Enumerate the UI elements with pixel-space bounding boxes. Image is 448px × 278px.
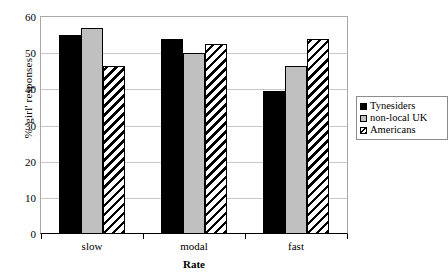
legend-label: Americans [370,125,415,136]
bar-fast-americans [307,39,329,234]
bar-modal-tynesiders [161,39,183,234]
x-axis-title: Rate [40,258,348,270]
x-axis-tick-mark [41,234,42,239]
y-axis-tick-label: 0 [10,229,36,240]
bar-slow-americans [103,66,125,234]
legend-label: Tynesiders [370,101,415,112]
bar-fast-non-local-uk [285,66,307,234]
y-axis-tick-label: 30 [10,120,36,131]
bar-chart: % 'girl' responses 0102030405060 slowmod… [0,0,448,278]
x-axis-tick-mark [143,234,144,239]
y-axis-tick-label: 20 [10,156,36,167]
y-axis-tick-label: 10 [10,192,36,203]
legend-swatch-icon [360,127,367,134]
bar-slow-non-local-uk [81,28,103,234]
bar-modal-americans [205,44,227,234]
x-axis-tick-mark [347,234,348,239]
y-axis-tick-labels: 0102030405060 [10,16,36,234]
bar-slow-tynesiders [59,35,81,234]
bar-modal-non-local-uk [183,53,205,234]
legend-label: non-local UK [370,113,427,124]
bars-layer [41,17,347,234]
y-axis-tick-label: 40 [10,84,36,95]
legend-item-non-local-uk: non-local UK [360,112,445,124]
legend-item-americans: Americans [360,124,445,136]
chart-legend: Tynesidersnon-local UKAmericans [356,96,448,140]
x-axis-tick-label: fast [288,240,304,252]
legend-swatch-icon [360,115,367,122]
x-axis-tick-label: modal [180,240,208,252]
y-axis-tick-label: 60 [10,12,36,23]
x-axis-tick-mark [245,234,246,239]
legend-swatch-icon [360,103,367,110]
bar-fast-tynesiders [263,91,285,234]
x-axis-tick-label: slow [82,240,103,252]
y-axis-tick-label: 50 [10,48,36,59]
legend-item-tynesiders: Tynesiders [360,100,445,112]
